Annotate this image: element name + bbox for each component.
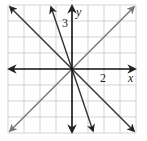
x-tick-label: 2 — [100, 71, 106, 85]
x-axis-label: x — [127, 71, 134, 85]
y-tick-label: 3 — [62, 16, 68, 30]
coordinate-plane: y 3 2 x — [0, 0, 147, 141]
y-axis-label: y — [75, 5, 82, 19]
